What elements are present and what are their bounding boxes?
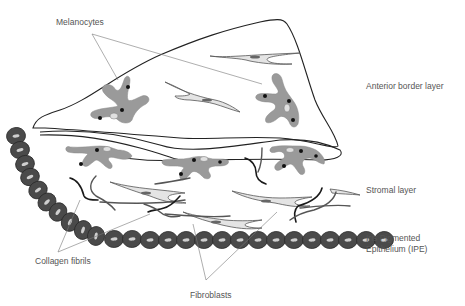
ipe-cell bbox=[302, 231, 322, 250]
anterior-border-layer-label: Anterior border layer bbox=[366, 81, 443, 92]
collagen-fibrils-label: Collagen fibrils bbox=[35, 256, 91, 267]
ipe-cell bbox=[212, 231, 232, 250]
collagen-fibril bbox=[70, 176, 115, 210]
melanocytes-label: Melanocytes bbox=[56, 17, 104, 28]
fibroblast bbox=[165, 82, 240, 112]
ipe-cell bbox=[266, 231, 286, 250]
ipe-cell bbox=[338, 231, 358, 250]
ipe-cell bbox=[140, 231, 160, 250]
ipe-cell bbox=[230, 231, 250, 250]
melanocyte bbox=[91, 76, 149, 123]
fibroblast bbox=[183, 212, 262, 229]
melanocyte bbox=[66, 146, 132, 169]
ipe-cell-chain bbox=[5, 126, 394, 249]
ipe-cell bbox=[248, 231, 268, 250]
stromal-layer-label: Stromal layer bbox=[366, 185, 416, 196]
fibroblast bbox=[210, 53, 300, 64]
ipe-cell bbox=[284, 231, 304, 250]
ipe-cell bbox=[320, 231, 340, 250]
fibroblast bbox=[232, 191, 312, 207]
fibroblast bbox=[330, 189, 360, 195]
melanocyte bbox=[162, 157, 229, 181]
melanocyte bbox=[270, 146, 325, 175]
ipe-cell bbox=[158, 231, 178, 250]
stroma-line bbox=[155, 178, 190, 184]
melanocyte bbox=[256, 74, 299, 127]
fibroblasts-label: Fibroblasts bbox=[190, 290, 232, 301]
fibroblast bbox=[110, 182, 186, 203]
ipe-label: Iris Pigmented Epithelium (IPE) bbox=[366, 233, 456, 255]
collagen-fibril bbox=[245, 148, 266, 184]
ipe-cell bbox=[122, 230, 142, 249]
ipe-cell bbox=[176, 231, 196, 250]
melanocytes-leader bbox=[92, 34, 118, 80]
anterior-border-layer-outline bbox=[33, 20, 338, 147]
ipe-cell bbox=[104, 230, 124, 249]
